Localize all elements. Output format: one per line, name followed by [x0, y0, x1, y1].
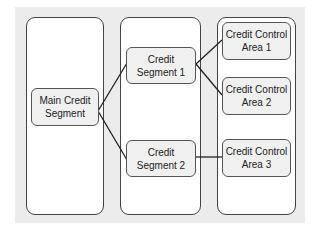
- node-label: Credit Segment 2: [137, 146, 185, 172]
- node-credit-control-area-2[interactable]: Credit Control Area 2: [222, 77, 291, 115]
- node-main-credit-segment[interactable]: Main Credit Segment: [31, 88, 99, 126]
- node-credit-control-area-3[interactable]: Credit Control Area 3: [222, 139, 291, 177]
- node-label: Credit Control Area 3: [226, 145, 288, 171]
- node-label: Credit Control Area 1: [226, 28, 288, 54]
- node-label: Credit Control Area 2: [226, 83, 288, 109]
- node-label: Credit Segment 1: [137, 53, 185, 79]
- node-credit-segment-1[interactable]: Credit Segment 1: [126, 47, 196, 84]
- node-credit-control-area-1[interactable]: Credit Control Area 1: [222, 22, 291, 60]
- node-credit-segment-2[interactable]: Credit Segment 2: [126, 140, 196, 177]
- node-label: Main Credit Segment: [39, 94, 90, 120]
